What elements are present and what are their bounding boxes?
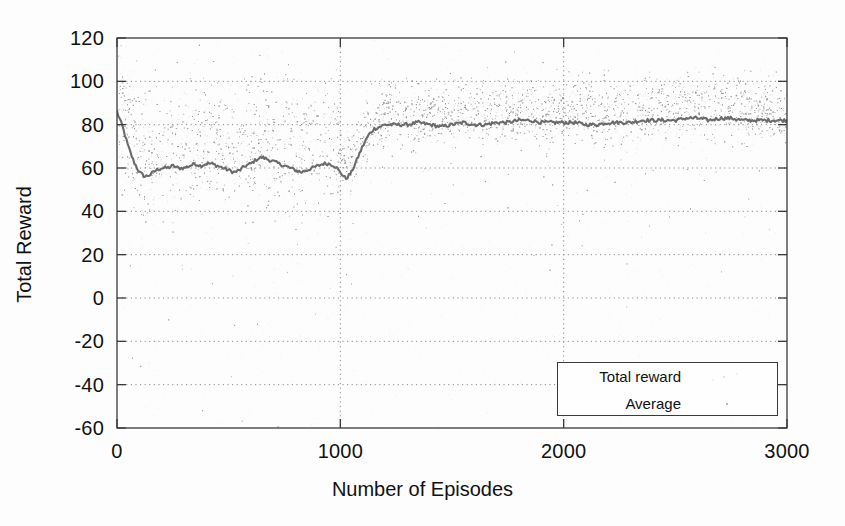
y-tick-80: 80	[81, 113, 104, 136]
y-tick-100: 100	[70, 70, 104, 93]
plot-canvas	[0, 0, 845, 526]
x-axis-label: Number of Episodes	[0, 478, 845, 501]
y-tick-neg20: -20	[74, 330, 104, 353]
scatter-sample-icon	[693, 370, 755, 384]
y-tick-neg60: -60	[74, 417, 104, 440]
y-tick-0: 0	[93, 287, 104, 310]
legend-entry-total-reward: Total reward	[558, 363, 777, 390]
x-tick-3000: 3000	[764, 440, 809, 463]
y-axis-label: Total Reward	[13, 135, 36, 355]
y-tick-20: 20	[81, 243, 104, 266]
legend-entry-average: Average	[558, 390, 777, 417]
line-sample-icon	[693, 397, 755, 411]
y-tick-60: 60	[81, 157, 104, 180]
chart-figure: 120100806040200-20-40-60 0100020003000 N…	[0, 0, 845, 526]
legend: Total reward Average	[557, 362, 778, 416]
legend-label-average: Average	[625, 395, 681, 412]
x-tick-1000: 1000	[318, 440, 363, 463]
x-tick-2000: 2000	[541, 440, 586, 463]
y-tick-120: 120	[70, 27, 104, 50]
legend-label-total-reward: Total reward	[599, 368, 681, 385]
x-tick-0: 0	[111, 440, 122, 463]
y-tick-neg40: -40	[74, 373, 104, 396]
y-tick-40: 40	[81, 200, 104, 223]
